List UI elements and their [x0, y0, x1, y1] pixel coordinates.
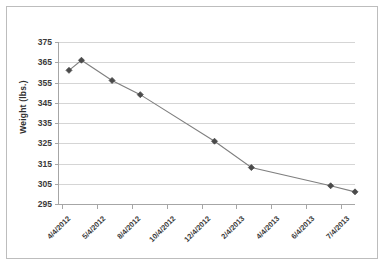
weight-series	[58, 42, 355, 204]
x-tick-mark-2	[132, 205, 133, 209]
series-markers	[66, 57, 358, 195]
x-tick-label-6: 4/4/2013	[248, 214, 281, 247]
data-point-6	[328, 183, 334, 189]
data-point-2	[109, 77, 115, 83]
y-tick-label-305: 305	[38, 179, 52, 189]
x-tick-mark-5	[236, 205, 237, 209]
x-tick-label-7: 6/4/2013	[283, 214, 316, 247]
y-tick-label-355: 355	[38, 78, 52, 88]
x-tick-mark-8	[341, 205, 342, 209]
y-tick-label-295: 295	[38, 199, 52, 209]
x-tick-mark-1	[97, 205, 98, 209]
x-tick-mark-4	[202, 205, 203, 209]
x-tick-mark-7	[306, 205, 307, 209]
y-tick-label-315: 315	[38, 159, 52, 169]
plot-area: 295305315325335345355365375 4/4/20125/4/…	[58, 42, 355, 204]
x-tick-mark-3	[167, 205, 168, 209]
x-tick-mark-6	[271, 205, 272, 209]
data-point-3	[137, 92, 143, 98]
y-tick-label-345: 345	[38, 98, 52, 108]
x-tick-label-3: 10/4/2012	[144, 214, 177, 247]
y-tick-label-375: 375	[38, 37, 52, 47]
x-tick-mark-0	[62, 205, 63, 209]
x-tick-label-5: 2/4/2013	[214, 214, 247, 247]
y-tick-label-325: 325	[38, 138, 52, 148]
x-tick-label-0: 4/4/2012	[39, 214, 72, 247]
chart-frame: Weight (lbs.) 29530531532533534535536537…	[6, 6, 378, 259]
y-tick-label-335: 335	[38, 118, 52, 128]
x-tick-label-8: 7/4/2013	[318, 214, 351, 247]
y-axis-title: Weight (lbs.)	[18, 62, 28, 152]
x-tick-label-2: 8/4/2012	[109, 214, 142, 247]
x-tick-label-1: 5/4/2012	[74, 214, 107, 247]
x-tick-label-4: 12/4/2012	[179, 214, 212, 247]
chart-plot-wrapper: Weight (lbs.) 29530531532533534535536537…	[7, 7, 379, 260]
x-axis-line	[58, 204, 355, 205]
y-tick-label-365: 365	[38, 57, 52, 67]
data-point-7	[352, 189, 358, 195]
